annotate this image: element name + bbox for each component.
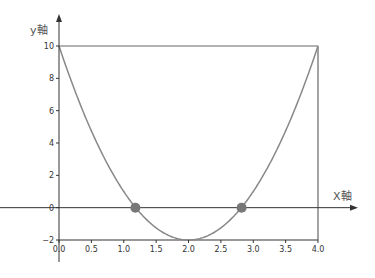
y-tick-label: 2 [49, 171, 54, 180]
x-tick-label: 1.5 [150, 245, 163, 254]
y-tick-label: 6 [49, 107, 54, 116]
parabola-chart: 0.00.51.01.52.02.53.03.54.0−20246810 y軸 … [0, 0, 375, 278]
y-tick-label: 8 [49, 74, 54, 83]
x-tick-label: 3.5 [279, 245, 292, 254]
y-tick-label: 10 [44, 42, 54, 51]
x-axis-label: X軸 [333, 189, 352, 203]
x-tick-label: 1.0 [117, 245, 130, 254]
parabola-curve [59, 46, 318, 240]
y-tick-label: 4 [49, 139, 54, 148]
axes [0, 14, 358, 262]
bounding-lines [59, 46, 318, 240]
x-tick-label: 2.5 [215, 245, 228, 254]
x-tick-label: 4.0 [312, 245, 325, 254]
root-2-point [237, 203, 247, 213]
x-tick-label: 0.0 [53, 245, 66, 254]
root-1-point [130, 203, 140, 213]
y-axis-arrow-icon [56, 14, 62, 22]
x-axis-arrow-icon [350, 205, 358, 211]
y-tick-label: −2 [42, 236, 54, 245]
x-tick-label: 2.0 [182, 245, 195, 254]
x-tick-label: 3.0 [247, 245, 260, 254]
x-tick-label: 0.5 [85, 245, 98, 254]
y-tick-label: 0 [49, 204, 54, 213]
parabola-path [59, 46, 318, 240]
y-axis-label: y軸 [30, 23, 48, 37]
tick-labels: 0.00.51.01.52.02.53.03.54.0−20246810 [42, 42, 324, 254]
